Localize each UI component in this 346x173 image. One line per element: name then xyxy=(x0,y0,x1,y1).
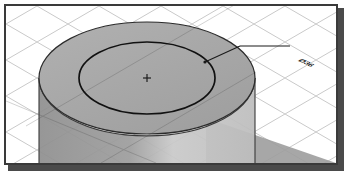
cad-viewport[interactable]: Ø36 xyxy=(4,4,338,165)
scene-graphics xyxy=(6,6,336,163)
viewport-canvas[interactable]: Ø36 xyxy=(6,6,336,163)
leader-arrow-dot xyxy=(203,60,206,63)
screenshot-root: Ø36 xyxy=(0,0,346,173)
